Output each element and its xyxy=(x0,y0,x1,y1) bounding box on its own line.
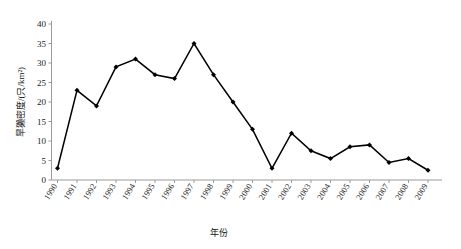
y-tick-label: 15 xyxy=(37,117,47,127)
y-tick-label: 0 xyxy=(42,175,47,185)
y-axis-title: 旱獭密度/(只/km²) xyxy=(15,67,26,137)
y-tick-label: 20 xyxy=(37,97,47,107)
y-tick-label: 25 xyxy=(37,78,47,88)
x-axis-title: 年份 xyxy=(210,227,228,238)
y-tick-label: 30 xyxy=(37,58,47,68)
y-tick-label: 40 xyxy=(37,19,47,29)
y-tick-label: 5 xyxy=(42,156,47,166)
marmot-density-line-chart: 0510152025303540 19901991199219931994199… xyxy=(0,0,461,249)
chart-canvas: 0510152025303540 19901991199219931994199… xyxy=(0,0,461,249)
y-tick-label: 35 xyxy=(37,39,47,49)
y-tick-label: 10 xyxy=(37,136,47,146)
